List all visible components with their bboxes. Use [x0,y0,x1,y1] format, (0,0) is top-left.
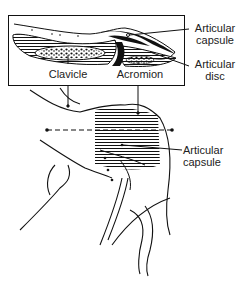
label-articular-capsule-top: Articular capsule [190,22,240,46]
label-line2: capsule [183,156,239,168]
label-line2: capsule [190,34,240,46]
label-clavicle: Clavicle [40,68,96,80]
label-line1: Articular [183,144,239,156]
label-line1: Articular [190,58,240,70]
capsule-hatching [95,108,160,190]
ac-joint-diagram: Clavicle Acromion Articular capsule Arti… [0,0,241,283]
label-articular-disc: Articular disc [190,58,240,82]
label-line2: disc [190,70,240,82]
label-line1: Articular [190,22,240,34]
label-acromion: Acromion [112,68,168,80]
label-articular-capsule-bottom: Articular capsule [183,144,239,168]
